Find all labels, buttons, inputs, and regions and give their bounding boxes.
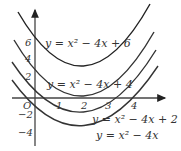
x-tick-1: 1 <box>56 100 62 111</box>
curve-label-1: y = x² − 4x + 6 <box>44 37 131 50</box>
y-tick-6: 6 <box>25 37 32 48</box>
y-tick-neg2: −2 <box>18 109 33 120</box>
curve-label-2: y = x² − 4x + 4 <box>46 78 133 91</box>
y-tick-4: 4 <box>24 53 31 64</box>
curve-x2-4x-6 <box>18 4 150 66</box>
x-tick-3: 3 <box>105 100 111 111</box>
y-tick-2: 2 <box>24 71 31 82</box>
curve-label-3: y = x² − 4x + 2 <box>91 113 178 126</box>
curve-label-4: y = x² − 4x <box>95 129 159 142</box>
x-tick-4: 4 <box>130 100 137 111</box>
x-tick-2: 2 <box>80 100 87 111</box>
y-tick-neg4: −4 <box>18 127 33 138</box>
parabola-chart: O 1 2 3 4 6 4 2 −2 −4 y = x² − 4x + 6 y … <box>0 0 181 151</box>
